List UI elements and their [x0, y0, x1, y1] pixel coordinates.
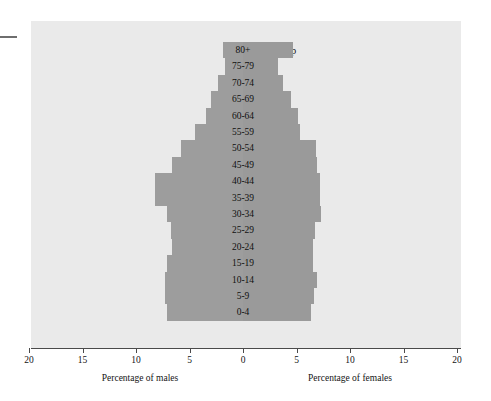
pyramid-row-5-9: 5-9 — [31, 288, 461, 304]
x-axis-tick — [29, 348, 30, 353]
pyramid-row-30-34: 30-34 — [31, 206, 461, 222]
pyramid-row-65-69: 65-69 — [31, 91, 461, 107]
x-axis-tick — [404, 348, 405, 353]
x-axis-tick-label: 0 — [223, 355, 263, 365]
pyramid-row-20-24: 20-24 — [31, 239, 461, 255]
age-group-label: 55-59 — [203, 124, 283, 140]
pyramid-row-80plus: 80+ — [31, 42, 461, 58]
x-axis-tick — [457, 348, 458, 353]
x-axis-tick-label: 10 — [330, 355, 370, 365]
pyramid-row-35-39: 35-39 — [31, 190, 461, 206]
age-group-label: 15-19 — [203, 255, 283, 271]
x-axis-line — [31, 348, 461, 349]
age-group-label: 60-64 — [203, 108, 283, 124]
pyramid-row-45-49: 45-49 — [31, 157, 461, 173]
age-group-label: 30-34 — [203, 206, 283, 222]
x-axis-tick-label: 15 — [384, 355, 424, 365]
pyramid-row-0-4: 0-4 — [31, 304, 461, 320]
pyramid-row-60-64: 60-64 — [31, 108, 461, 124]
x-axis-label-males: Percentage of males — [40, 373, 240, 383]
age-group-label: 25-29 — [203, 222, 283, 238]
age-group-label: 65-69 — [203, 91, 283, 107]
x-axis-tick — [297, 348, 298, 353]
pyramid-row-55-59: 55-59 — [31, 124, 461, 140]
x-axis-tick-label: 20 — [437, 355, 477, 365]
age-group-label: 0-4 — [203, 304, 283, 320]
age-group-label: 10-14 — [203, 272, 283, 288]
x-axis-tick — [83, 348, 84, 353]
x-axis-tick — [190, 348, 191, 353]
pyramid-row-50-54: 50-54 — [31, 140, 461, 156]
x-axis-tick — [350, 348, 351, 353]
age-group-label: 5-9 — [203, 288, 283, 304]
age-group-label: 70-74 — [203, 75, 283, 91]
x-axis-tick-label: 10 — [116, 355, 156, 365]
age-group-label: 20-24 — [203, 239, 283, 255]
age-group-label: 40-44 — [203, 173, 283, 189]
population-pyramid-figure: Age group 80+75-7970-7465-6960-6455-5950… — [0, 0, 491, 401]
pyramid-row-10-14: 10-14 — [31, 272, 461, 288]
x-axis-tick-label: 5 — [277, 355, 317, 365]
age-group-label: 35-39 — [203, 190, 283, 206]
x-axis-tick — [243, 348, 244, 353]
x-axis-label-females: Percentage of females — [250, 373, 450, 383]
age-group-label: 80+ — [203, 42, 283, 58]
age-group-label: 75-79 — [203, 58, 283, 74]
pyramid-row-70-74: 70-74 — [31, 75, 461, 91]
x-axis-tick-label: 5 — [170, 355, 210, 365]
x-axis-tick — [136, 348, 137, 353]
x-axis-tick-label: 15 — [63, 355, 103, 365]
plot-area: Age group 80+75-7970-7465-6960-6455-5950… — [31, 21, 461, 348]
pyramid-row-75-79: 75-79 — [31, 58, 461, 74]
pyramid-row-40-44: 40-44 — [31, 173, 461, 189]
age-group-label: 45-49 — [203, 157, 283, 173]
x-axis-tick-label: 20 — [9, 355, 49, 365]
age-group-label: 50-54 — [203, 140, 283, 156]
pyramid-row-15-19: 15-19 — [31, 255, 461, 271]
pyramid-row-25-29: 25-29 — [31, 222, 461, 238]
